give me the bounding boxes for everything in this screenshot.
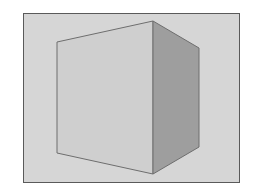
cube-illustration — [0, 0, 257, 190]
cube-side-face — [153, 21, 199, 174]
cube-front-face — [57, 21, 153, 174]
